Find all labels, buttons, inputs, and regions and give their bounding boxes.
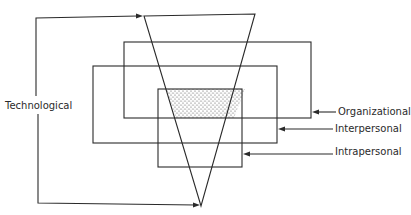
label-interpersonal: Interpersonal [335,123,402,135]
arrowhead-technological-top-icon [136,14,143,19]
label-intrapersonal: Intrapersonal [335,146,402,158]
arrowhead-interpersonal-icon [278,127,285,132]
arrowhead-organizational-icon [312,110,319,115]
arrowhead-intrapersonal-icon [243,152,250,157]
technological-connector-top [36,16,138,96]
arrowhead-technological-bottom-icon [193,203,200,208]
technological-connector-bottom [38,114,196,205]
label-organizational: Organizational [338,106,411,118]
label-technological: Technological [5,100,72,112]
